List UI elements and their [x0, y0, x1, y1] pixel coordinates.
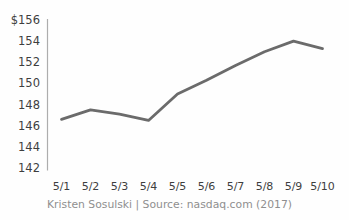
x-tick-label: 5/9 — [285, 180, 303, 193]
x-tick-label: 5/10 — [310, 180, 335, 193]
y-axis-tick-labels: 142144146148150152154$156 — [11, 13, 40, 175]
y-tick-label: 152 — [18, 55, 40, 69]
x-tick-label: 5/7 — [227, 180, 245, 193]
y-tick-label: 150 — [18, 76, 40, 90]
x-axis-tick-labels: 5/15/25/35/45/55/65/75/85/95/10 — [53, 180, 335, 193]
x-tick-label: 5/3 — [111, 180, 129, 193]
y-tick-label: $156 — [11, 13, 40, 27]
y-tick-label: 154 — [18, 34, 40, 48]
chart-container: 142144146148150152154$156 5/15/25/35/45/… — [0, 0, 349, 220]
chart-svg: 142144146148150152154$156 5/15/25/35/45/… — [0, 0, 349, 220]
x-tick-label: 5/6 — [198, 180, 216, 193]
x-tick-label: 5/2 — [82, 180, 100, 193]
y-tick-label: 142 — [18, 161, 40, 175]
y-tick-label: 146 — [18, 119, 40, 133]
price-line — [62, 41, 323, 120]
x-tick-label: 5/5 — [169, 180, 187, 193]
x-tick-label: 5/4 — [140, 180, 158, 193]
y-tick-label: 148 — [18, 98, 40, 112]
chart-caption: Kristen Sosulski | Source: nasdaq.com (2… — [47, 198, 292, 211]
x-tick-label: 5/8 — [256, 180, 274, 193]
x-tick-label: 5/1 — [53, 180, 71, 193]
y-tick-label: 144 — [18, 140, 40, 154]
